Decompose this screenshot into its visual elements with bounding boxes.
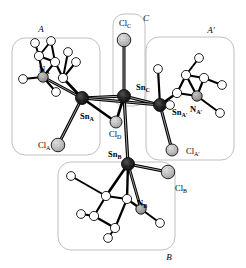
- atom-texture: [166, 144, 177, 155]
- atom-cl-clap: [166, 144, 178, 156]
- atom-c-cb1: [101, 191, 110, 200]
- label-element: Sn: [108, 149, 118, 159]
- atom-labels: SnASnBSnCSnA′NANBNA′ClAClBClCClDClA′: [38, 18, 202, 209]
- atom-label-cl-d: ClD: [109, 129, 122, 140]
- label-subscript: A: [45, 69, 50, 75]
- atom-c-cb4: [110, 223, 119, 232]
- atom-label-cl-b: ClB: [175, 183, 187, 194]
- label-subscript: D: [117, 134, 122, 140]
- atom-h-ha6: [52, 88, 61, 97]
- label-subscript: A: [46, 145, 51, 151]
- atom-h-hp1: [154, 65, 163, 74]
- atom-cl-cld: [110, 116, 122, 128]
- atom-label-sn-c: SnC: [136, 82, 150, 93]
- label-subscript: A′: [196, 109, 202, 115]
- bond-highlight-SnA-ClA: [58, 98, 82, 145]
- atom-c-cp2: [181, 70, 190, 79]
- atom-cl-cla: [51, 138, 65, 152]
- atom-cl-clb: [161, 165, 175, 179]
- bond-highlight-SnAp-ClAp: [160, 105, 172, 150]
- label-subscript: B: [183, 188, 187, 194]
- atom-c-cp3: [199, 73, 208, 82]
- atom-label-n-ap: NA′: [190, 104, 202, 115]
- atom-c-ca2: [50, 57, 59, 66]
- atom-label-sn-a: SnA: [80, 111, 94, 122]
- region-label-c: C: [143, 13, 150, 23]
- label-subscript: A′: [194, 151, 200, 157]
- atom-h-hp2: [195, 54, 204, 63]
- atom-c-ca1: [58, 73, 67, 82]
- atom-texture: [118, 34, 131, 47]
- label-subscript: C: [127, 23, 131, 29]
- atom-h-ha3: [64, 48, 73, 57]
- atom-label-cl-c: ClC: [119, 18, 131, 29]
- label-subscript: A: [89, 116, 94, 122]
- label-subscript: C: [145, 87, 149, 93]
- atom-h-ha4: [72, 58, 81, 67]
- atom-texture: [162, 166, 175, 179]
- atom-h-hp4: [216, 109, 225, 118]
- atom-h-hp3: [218, 81, 227, 90]
- atom-label-sn-ap: SnA′: [172, 107, 188, 118]
- label-subscript: B: [143, 203, 147, 209]
- atom-n-nap: [192, 91, 202, 101]
- atom-c-cp1: [172, 88, 181, 97]
- region-label-a: A: [37, 24, 44, 34]
- label-subscript: B: [117, 154, 121, 160]
- label-element: Sn: [172, 107, 182, 117]
- label-element: Sn: [136, 82, 146, 92]
- atom-h-ha2: [47, 37, 56, 46]
- atom-label-cl-ap: ClA′: [186, 146, 200, 157]
- label-subscript: A′: [181, 112, 187, 118]
- atom-h-ha1: [31, 39, 40, 48]
- atom-sn-snap: [154, 99, 167, 112]
- atom-c-ca3: [34, 51, 43, 60]
- atom-h-hb1: [67, 172, 76, 181]
- label-element: Sn: [80, 111, 90, 121]
- structure-canvas: SnASnBSnCSnA′NANBNA′ClAClBClCClDClA′ AA′…: [0, 0, 246, 268]
- atom-sn-sna: [76, 92, 89, 105]
- atom-h-hb4: [156, 219, 165, 228]
- atom-c-cb2: [122, 194, 131, 203]
- atom-label-cl-a: ClA: [38, 140, 51, 151]
- atom-h-hb2: [77, 210, 86, 219]
- region-label-b: B: [166, 252, 172, 262]
- atom-h-hb3: [104, 234, 113, 243]
- atom-texture: [52, 139, 65, 152]
- atom-texture: [110, 116, 121, 127]
- atom-cl-clc: [117, 33, 131, 47]
- atom-h-ha5: [19, 75, 28, 84]
- atom-c-cb3: [89, 211, 98, 220]
- molecular-structure-figure: SnASnBSnCSnA′NANBNA′ClAClBClCClDClA′ AA′…: [0, 0, 246, 268]
- atom-texture: [192, 91, 202, 101]
- region-label-ap: A′: [206, 25, 215, 35]
- atom-label-n-a: NA: [39, 64, 50, 75]
- bond-CB1-HB1: [71, 176, 106, 196]
- atom-sn-snb: [122, 158, 135, 171]
- atom-label-n-b: NB: [137, 198, 147, 209]
- atom-sn-snc: [118, 90, 131, 103]
- bond-network: [23, 40, 222, 238]
- atom-label-sn-b: SnB: [108, 149, 121, 160]
